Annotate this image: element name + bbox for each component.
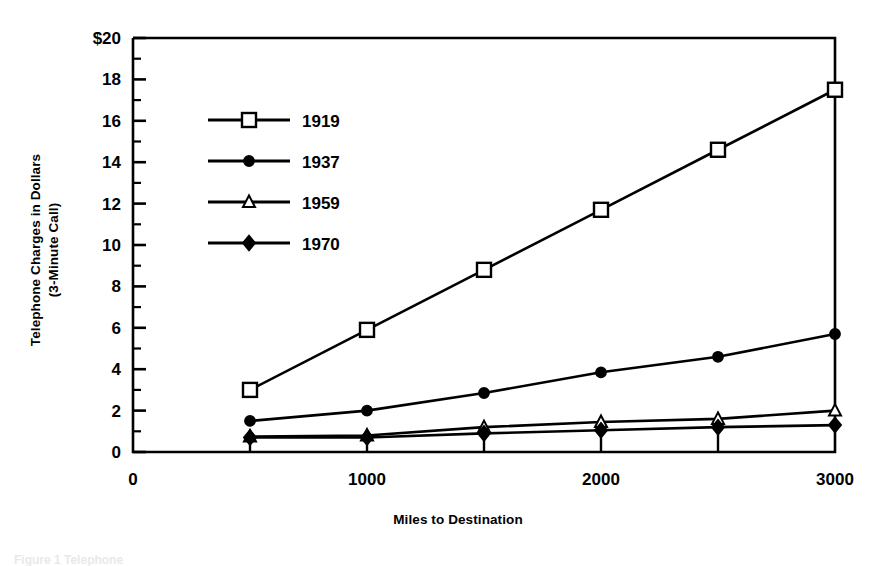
- figure-caption: Figure 1 Telephone: [14, 553, 123, 566]
- data-point-marker: [828, 83, 842, 97]
- figure-container: Telephone Charges in Dollars (3-Minute C…: [0, 0, 888, 566]
- data-point-marker: [242, 113, 256, 127]
- y-tick-label-6: 6: [112, 319, 121, 338]
- x-axis-title: Miles to Destination: [393, 512, 523, 527]
- x-tick-label-3000: 3000: [816, 470, 854, 489]
- legend-item-1970[interactable]: 1970: [208, 235, 340, 254]
- y-axis-title-line1: Telephone Charges in Dollars: [28, 154, 43, 346]
- y-tick-label-14: 14: [102, 153, 121, 172]
- data-point-marker: [244, 156, 254, 166]
- data-point-marker: [362, 405, 372, 415]
- data-point-marker: [244, 430, 256, 445]
- data-point-marker: [360, 323, 374, 337]
- series-1970: [244, 418, 841, 445]
- y-tick-label-18: 18: [102, 70, 121, 89]
- legend-item-1919[interactable]: 1919: [208, 112, 340, 131]
- data-point-marker: [361, 430, 373, 445]
- data-point-marker: [479, 388, 489, 398]
- data-point-marker: [243, 383, 257, 397]
- legend-label-1959: 1959: [302, 194, 340, 213]
- data-point-marker: [596, 367, 606, 377]
- x-tick-label-2000: 2000: [582, 470, 620, 489]
- data-point-marker: [829, 418, 841, 433]
- chart-legend: 1919193719591970: [208, 112, 340, 254]
- data-point-marker: [594, 203, 608, 217]
- x-tick-label-0: 0: [128, 470, 137, 489]
- legend-item-1959[interactable]: 1959: [208, 194, 340, 213]
- data-point-marker: [711, 143, 725, 157]
- data-point-marker: [830, 329, 840, 339]
- y-tick-label-8: 8: [112, 277, 121, 296]
- legend-label-1919: 1919: [302, 112, 340, 131]
- legend-label-1970: 1970: [302, 235, 340, 254]
- y-axis-ticks: [133, 38, 146, 452]
- data-series-layer: [243, 83, 842, 445]
- y-tick-label-12: 12: [102, 195, 121, 214]
- data-point-marker: [245, 416, 255, 426]
- data-point-marker: [477, 263, 491, 277]
- series-1959: [244, 404, 841, 441]
- data-point-marker: [713, 352, 723, 362]
- y-tick-label-2: 2: [112, 402, 121, 421]
- y-axis-tick-labels: 024681012141618$20: [93, 29, 122, 462]
- x-tick-label-1000: 1000: [348, 470, 386, 489]
- line-chart: Telephone Charges in Dollars (3-Minute C…: [0, 0, 888, 566]
- legend-item-1937[interactable]: 1937: [208, 153, 340, 172]
- legend-label-1937: 1937: [302, 153, 340, 172]
- data-point-marker: [243, 236, 255, 251]
- series-line-1937: [250, 334, 835, 421]
- y-tick-label-16: 16: [102, 112, 121, 131]
- series-1937: [245, 329, 840, 426]
- y-axis-title: Telephone Charges in Dollars (3-Minute C…: [28, 154, 61, 346]
- y-axis-title-line2: (3-Minute Call): [46, 203, 61, 298]
- y-tick-label-4: 4: [112, 360, 122, 379]
- y-tick-label-0: 0: [112, 443, 121, 462]
- y-tick-label-10: 10: [102, 236, 121, 255]
- y-tick-label-$20: $20: [93, 29, 121, 48]
- x-axis-tick-labels: 0100020003000: [128, 470, 854, 489]
